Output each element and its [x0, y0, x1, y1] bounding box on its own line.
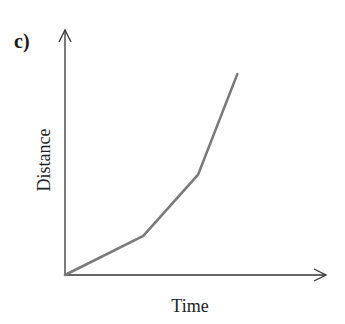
x-axis-label: Time — [171, 296, 208, 317]
distance-time-line — [65, 74, 237, 275]
y-axis-label: Distance — [34, 129, 55, 192]
